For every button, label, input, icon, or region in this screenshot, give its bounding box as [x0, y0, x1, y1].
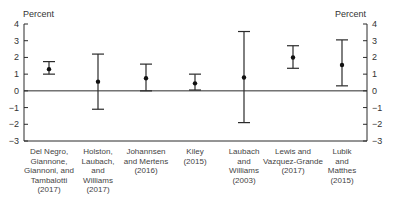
- error-bar: [43, 62, 55, 75]
- svg-text:−2: −2: [9, 119, 19, 129]
- svg-text:−1: −1: [9, 103, 19, 113]
- point-estimate: [242, 75, 246, 79]
- svg-text:2: 2: [372, 52, 377, 62]
- svg-text:3: 3: [372, 36, 377, 46]
- point-estimate: [47, 67, 51, 71]
- point-estimate: [96, 79, 100, 83]
- error-bar: [287, 46, 299, 69]
- svg-text:4: 4: [372, 19, 377, 29]
- error-bar: [140, 64, 152, 91]
- svg-text:4: 4: [14, 19, 19, 29]
- error-bar: [189, 74, 201, 90]
- error-bars: [43, 32, 348, 123]
- svg-text:2: 2: [14, 52, 19, 62]
- svg-text:1: 1: [14, 69, 19, 79]
- point-estimate: [291, 55, 295, 59]
- error-bar: [92, 54, 104, 109]
- category-label: Lubik and Matthes (2015): [312, 147, 372, 185]
- point-estimate: [193, 81, 197, 85]
- svg-text:1: 1: [372, 69, 377, 79]
- error-bar: [336, 40, 348, 86]
- left-axis-unit: Percent: [23, 9, 54, 19]
- right-axis-unit: Percent: [335, 9, 366, 19]
- svg-text:−3: −3: [372, 136, 382, 146]
- svg-text:−1: −1: [372, 103, 382, 113]
- point-estimate: [340, 63, 344, 67]
- svg-text:3: 3: [14, 36, 19, 46]
- svg-text:0: 0: [372, 86, 377, 96]
- point-estimate: [144, 76, 148, 80]
- svg-text:−3: −3: [9, 136, 19, 146]
- svg-text:0: 0: [14, 86, 19, 96]
- svg-text:−2: −2: [372, 119, 382, 129]
- error-bar: [238, 32, 250, 123]
